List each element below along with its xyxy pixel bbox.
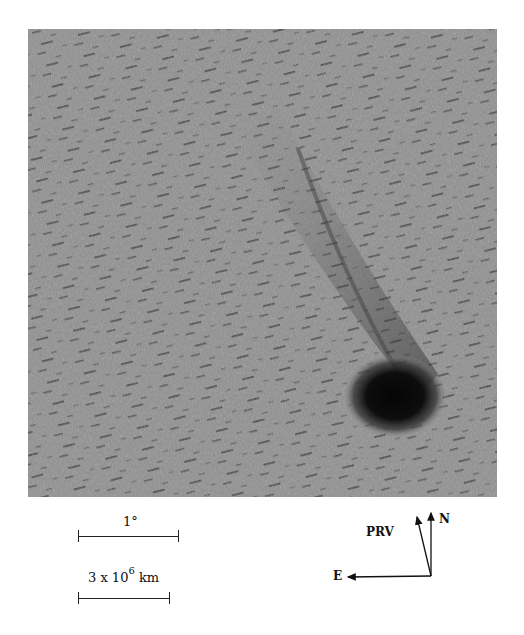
linear-scale-unit: km	[139, 570, 159, 585]
north-label: N	[439, 512, 450, 526]
linear-scale-base: 3 x 10	[88, 570, 128, 585]
comet-photograph	[28, 29, 497, 497]
scale-tick-right	[178, 530, 179, 542]
east-label: E	[333, 569, 342, 583]
orientation-compass: N PRV E	[330, 505, 480, 585]
prv-label: PRV	[366, 525, 394, 539]
angular-scale-label: 1°	[123, 514, 138, 529]
scale-line	[78, 598, 170, 599]
linear-scale-exponent: 6	[128, 565, 134, 576]
linear-scale-label: 3 x 106 km	[88, 568, 159, 585]
compass-arrows	[330, 505, 480, 585]
east-arrow-icon	[348, 576, 431, 577]
linear-scale-bar: 3 x 106 km	[78, 560, 182, 605]
scale-line	[78, 536, 179, 537]
angular-scale-bar: 1°	[78, 514, 182, 544]
comet-image	[28, 29, 497, 497]
prv-arrow-icon	[417, 517, 431, 576]
scale-tick-right	[169, 592, 170, 604]
